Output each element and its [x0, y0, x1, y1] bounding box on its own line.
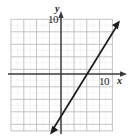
x-axis-label: x — [117, 76, 122, 86]
coordinate-plane-figure: y 10 10 x — [0, 0, 130, 139]
y-axis-tick-label-10: 10 — [48, 14, 58, 25]
x-axis-tick-label-10: 10 — [99, 76, 109, 87]
graph-canvas — [0, 0, 130, 139]
